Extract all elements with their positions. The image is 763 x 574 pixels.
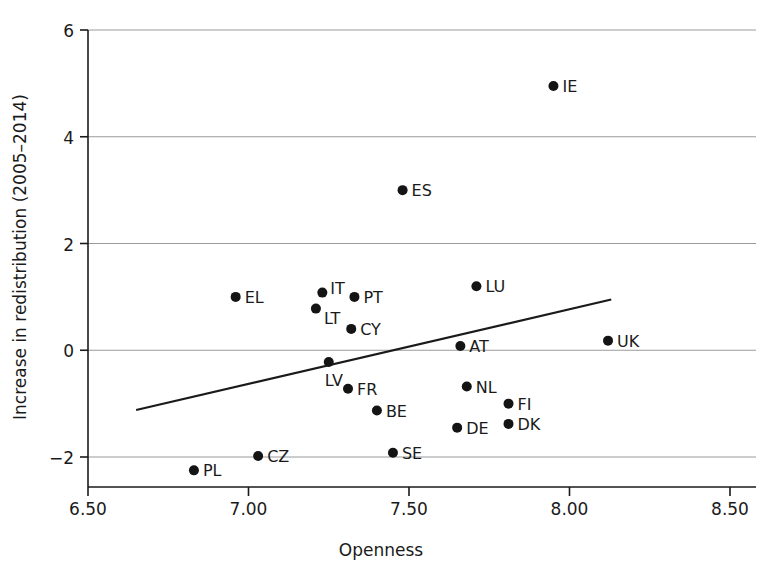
scatter-plot-figure: 6420−26.507.007.508.008.50 IEESLUITPTELL…	[0, 0, 763, 574]
tick-marks-group	[80, 30, 730, 496]
plot-canvas: 6420−26.507.007.508.008.50 IEESLUITPTELL…	[0, 0, 763, 574]
data-point-cz	[253, 451, 263, 461]
data-point-pl	[189, 465, 199, 475]
data-label-lu: LU	[485, 277, 505, 296]
data-label-pt: PT	[363, 288, 383, 307]
data-point-se	[388, 448, 398, 458]
tick-labels-group: 6420−26.507.007.508.008.50	[49, 21, 749, 519]
data-point-labels-group: IEESLUITPTELLTCYUKATLVNLFRFIBEDKDESECZPL	[203, 77, 640, 480]
data-label-it: IT	[330, 279, 345, 298]
y-tick-label-0: 0	[63, 341, 74, 361]
y-tick-label-6: 6	[63, 21, 74, 41]
data-point-uk	[603, 336, 613, 346]
data-label-de: DE	[466, 419, 488, 438]
x-tick-label-8: 8.00	[551, 499, 589, 519]
data-label-nl: NL	[476, 378, 497, 397]
data-point-ie	[548, 81, 558, 91]
data-label-at: AT	[469, 337, 489, 356]
data-point-lu	[471, 281, 481, 291]
x-tick-label-8.5: 8.50	[711, 499, 749, 519]
data-label-ie: IE	[562, 77, 577, 96]
data-point-at	[455, 341, 465, 351]
data-point-de	[452, 423, 462, 433]
data-point-pt	[349, 292, 359, 302]
data-point-fi	[504, 399, 514, 409]
data-label-uk: UK	[617, 332, 640, 351]
data-point-lt	[311, 304, 321, 314]
y-axis-title: Increase in redistribution (2005–2014)	[10, 94, 30, 420]
data-point-fr	[343, 384, 353, 394]
gridlines-group	[88, 30, 756, 457]
data-label-dk: DK	[518, 415, 541, 434]
data-label-pl: PL	[203, 461, 222, 480]
y-tick-label-2: 2	[63, 235, 74, 255]
x-tick-label-7.5: 7.50	[390, 499, 428, 519]
data-point-lv	[324, 357, 334, 367]
data-point-es	[398, 185, 408, 195]
data-point-it	[317, 288, 327, 298]
data-label-lv: LV	[325, 371, 343, 390]
data-point-cy	[346, 324, 356, 334]
x-axis-title: Openness	[339, 540, 423, 560]
data-label-cz: CZ	[267, 447, 289, 466]
axes-group	[88, 30, 756, 487]
y-tick-label--2: −2	[49, 448, 74, 468]
data-label-fi: FI	[518, 395, 532, 414]
data-point-el	[231, 292, 241, 302]
data-label-be: BE	[386, 402, 407, 421]
x-tick-label-6.5: 6.50	[69, 499, 107, 519]
data-label-fr: FR	[357, 380, 377, 399]
data-label-lt: LT	[324, 309, 341, 328]
data-point-nl	[462, 382, 472, 392]
data-label-cy: CY	[360, 320, 381, 339]
data-label-el: EL	[245, 288, 264, 307]
data-point-be	[372, 406, 382, 416]
data-label-es: ES	[412, 181, 432, 200]
data-label-se: SE	[402, 444, 422, 463]
y-tick-label-4: 4	[63, 128, 74, 148]
data-point-dk	[504, 419, 514, 429]
x-tick-label-7: 7.00	[230, 499, 268, 519]
